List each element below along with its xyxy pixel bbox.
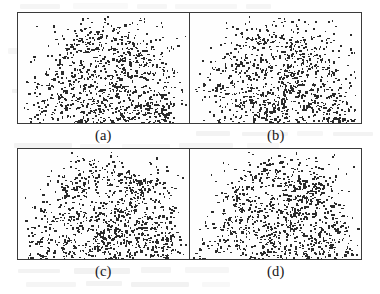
panel-b: [189, 13, 361, 123]
scatter-plot-c: [18, 149, 189, 259]
scatter-plot-b: [190, 13, 361, 123]
caption-row-top: (a) (b): [17, 125, 362, 145]
panel-row-top: [17, 12, 362, 124]
scatter-plot-d: [190, 149, 361, 259]
scatter-plot-a: [18, 13, 189, 123]
caption-row-bottom: (c) (d): [17, 261, 362, 281]
panel-c: [18, 149, 189, 259]
caption-c: (c): [17, 261, 190, 281]
panel-row-bottom: [17, 148, 362, 260]
caption-d: (d): [190, 261, 363, 281]
caption-b: (b): [190, 125, 363, 145]
caption-a: (a): [17, 125, 190, 145]
panel-a: [18, 13, 189, 123]
panel-d: [189, 149, 361, 259]
four-panel-figure: (a) (b) (c) (d): [0, 0, 380, 294]
